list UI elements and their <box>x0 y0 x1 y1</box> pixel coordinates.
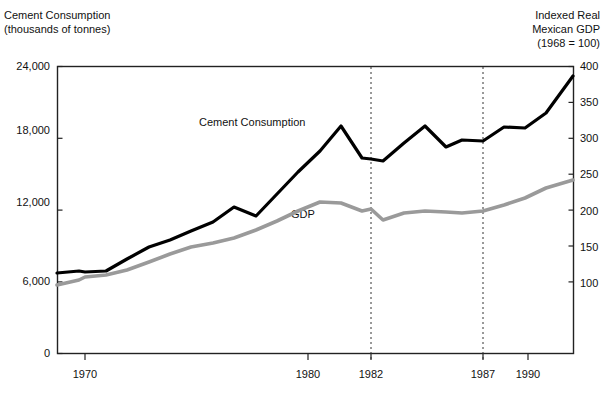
series-line-gdp <box>57 180 573 285</box>
chart-root: Cement Consumption(thousands of tonnes) … <box>0 0 604 398</box>
y-axis-left-ticks <box>58 67 63 354</box>
x-axis-ticks <box>85 354 528 361</box>
chart-svg <box>0 0 604 398</box>
plot-frame <box>58 67 574 354</box>
y-axis-right-ticks <box>569 67 574 282</box>
series-line-cement-consumption <box>57 76 573 273</box>
